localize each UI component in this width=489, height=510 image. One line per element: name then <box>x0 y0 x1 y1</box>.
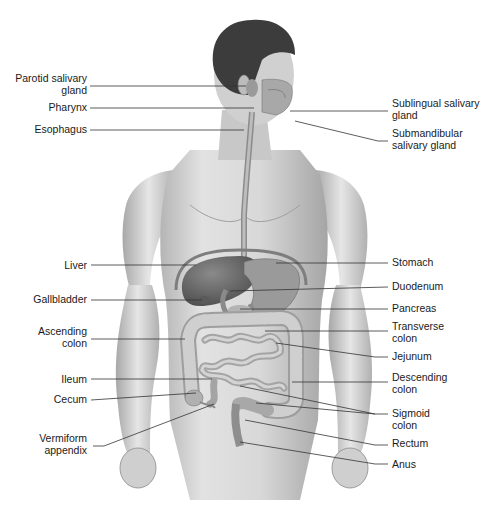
digestive-system-diagram: Parotid salivary glandPharynxEsophagusLi… <box>0 0 489 510</box>
label-vermiform-appendix: Vermiform appendix <box>0 432 87 456</box>
submandibular-leader-line <box>295 121 388 141</box>
body-silhouette <box>116 110 372 500</box>
label-parotid: Parotid salivary gland <box>0 72 87 96</box>
label-jejunum: Jejunum <box>392 350 432 362</box>
label-duodenum: Duodenum <box>392 280 443 292</box>
label-gallbladder: Gallbladder <box>0 293 87 305</box>
label-esophagus: Esophagus <box>0 123 87 135</box>
label-ascending-colon: Ascending colon <box>0 325 87 349</box>
head <box>213 20 295 125</box>
label-anus: Anus <box>392 458 416 470</box>
label-transverse-colon: Transverse colon <box>392 320 444 344</box>
label-sublingual: Sublingual salivary gland <box>392 97 480 121</box>
label-stomach: Stomach <box>392 256 433 268</box>
label-pharynx: Pharynx <box>0 101 87 113</box>
label-ileum: Ileum <box>0 373 87 385</box>
label-descending-colon: Descending colon <box>392 371 447 395</box>
label-sigmoid-colon: Sigmoid colon <box>392 407 430 431</box>
label-pancreas: Pancreas <box>392 302 436 314</box>
label-rectum: Rectum <box>392 437 428 449</box>
cecum <box>185 390 203 406</box>
label-cecum: Cecum <box>0 393 87 405</box>
rectum <box>235 404 240 446</box>
label-submandibular: Submandibular salivary gland <box>392 127 463 151</box>
label-liver: Liver <box>0 259 87 271</box>
